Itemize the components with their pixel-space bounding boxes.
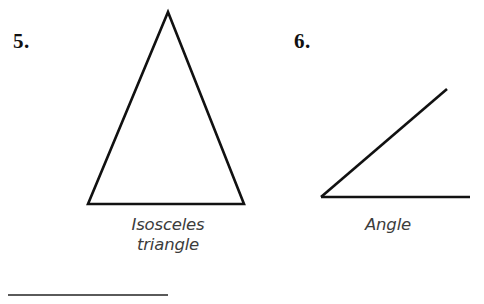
worksheet-page: 5. 6. Isosceles triangle Angle bbox=[0, 0, 484, 304]
exercise-number-6: 6. bbox=[294, 31, 311, 52]
angle-ray-slanted bbox=[321, 89, 447, 197]
isosceles-triangle-shape bbox=[88, 12, 244, 204]
figures-canvas bbox=[0, 0, 484, 304]
exercise-number-5: 5. bbox=[13, 31, 30, 52]
caption-isosceles-triangle: Isosceles triangle bbox=[68, 215, 268, 255]
caption-angle: Angle bbox=[318, 215, 458, 235]
